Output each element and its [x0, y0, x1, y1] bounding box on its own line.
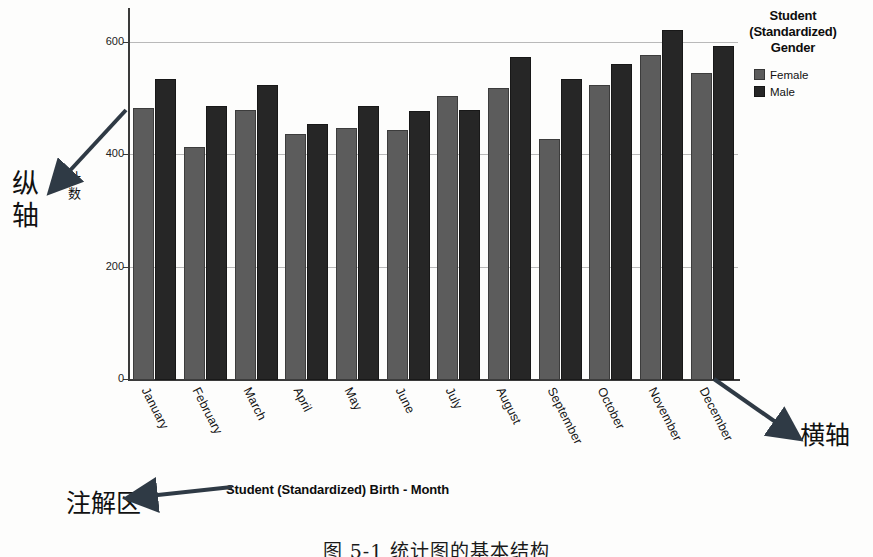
legend-title-line-3: Gender — [718, 40, 868, 56]
bar-female-april — [285, 134, 306, 380]
bar-female-july — [437, 96, 458, 380]
x-label-february: February — [190, 385, 226, 437]
bar-female-may — [336, 128, 357, 380]
y-tick: 200 — [92, 261, 124, 272]
y-tick-label: 200 — [98, 261, 124, 272]
y-tick-label: 400 — [98, 148, 124, 159]
bar-group — [336, 8, 380, 380]
bar-male-march — [257, 85, 278, 380]
x-label-january: January — [139, 385, 172, 432]
bar-group — [184, 8, 228, 380]
x-label-march: March — [240, 385, 268, 423]
y-tick: 600 — [92, 36, 124, 47]
annotation-vertical-axis: 纵轴 — [12, 168, 52, 232]
y-axis-title: 计数 — [66, 170, 82, 202]
bar-male-october — [611, 64, 632, 380]
bar-group — [133, 8, 177, 380]
arrow-to-annotation-area — [130, 487, 232, 498]
bar-male-september — [561, 79, 582, 380]
y-tick: 0 — [92, 373, 124, 384]
bar-female-september — [539, 139, 560, 380]
x-label-august: August — [494, 385, 524, 427]
bar-male-november — [662, 30, 683, 380]
x-label-may: May — [342, 385, 365, 413]
legend-swatch-female — [754, 69, 765, 80]
bar-male-may — [358, 106, 379, 380]
legend: Student (Standardized) Gender FemaleMale — [718, 8, 868, 100]
bar-group — [640, 8, 684, 380]
y-tick-label: 0 — [98, 373, 124, 384]
legend-entry-female: Female — [754, 66, 868, 83]
bar-female-june — [387, 130, 408, 380]
bar-male-june — [409, 111, 430, 380]
legend-title-line-1: Student — [718, 8, 868, 24]
x-label-december: December — [696, 385, 735, 443]
legend-label-female: Female — [770, 69, 808, 81]
bar-group — [235, 8, 279, 380]
bar-group — [285, 8, 329, 380]
bar-female-february — [184, 147, 205, 380]
bar-female-october — [589, 85, 610, 380]
x-label-november: November — [646, 385, 685, 443]
legend-swatch-male — [754, 86, 765, 97]
bar-male-july — [459, 110, 480, 380]
x-label-april: April — [291, 385, 315, 414]
bar-male-january — [155, 79, 176, 380]
bar-female-november — [640, 55, 661, 380]
bar-female-august — [488, 88, 509, 380]
x-label-october: October — [595, 385, 628, 432]
legend-label-male: Male — [770, 86, 795, 98]
y-tick: 400 — [92, 148, 124, 159]
bar-group — [437, 8, 481, 380]
annotation-legend-area: 注解区 — [66, 483, 141, 519]
bar-group — [539, 8, 583, 380]
bar-series-area — [130, 8, 738, 380]
bar-chart-figure: 0200400600 JanuaryFebruaryMarchAprilMayJ… — [0, 0, 873, 557]
x-label-june: June — [392, 385, 417, 416]
bar-male-february — [206, 106, 227, 380]
y-tick-label: 600 — [98, 36, 124, 47]
legend-entries: FemaleMale — [718, 66, 868, 100]
legend-entry-male: Male — [754, 83, 868, 100]
bar-male-april — [307, 124, 328, 380]
bar-group — [387, 8, 431, 380]
legend-title: Student (Standardized) Gender — [718, 8, 868, 56]
bar-female-december — [691, 73, 712, 380]
figure-caption: 图 5-1 统计图的基本结构 — [0, 536, 873, 557]
bar-female-january — [133, 108, 154, 380]
x-axis-title: Student (Standardized) Birth - Month — [226, 482, 449, 497]
bar-male-august — [510, 57, 531, 380]
bar-group — [488, 8, 532, 380]
x-label-september: September — [544, 385, 585, 447]
bar-group — [589, 8, 633, 380]
x-label-july: July — [443, 385, 466, 412]
annotation-horizontal-axis: 横轴 — [800, 415, 850, 451]
bar-female-march — [235, 110, 256, 380]
legend-title-line-2: (Standardized) — [718, 24, 868, 40]
